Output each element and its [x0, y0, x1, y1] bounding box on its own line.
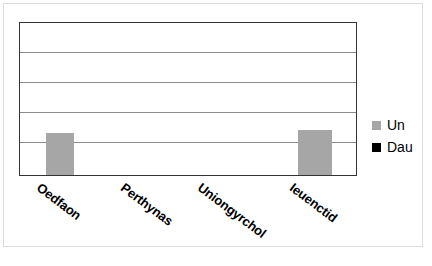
x-axis-labels: Oedfaon Perthynas Uniongyrchol Ieuenctid: [19, 176, 357, 248]
legend-label-dau: Dau: [387, 140, 413, 154]
gridline-2: [20, 82, 356, 83]
gridline-1: [20, 52, 356, 53]
gray-square-icon: [372, 121, 381, 130]
black-square-icon: [372, 143, 381, 152]
plot-area: [19, 22, 357, 176]
bar-oedfaon-un[interactable]: [46, 133, 74, 175]
bar-ieuenctid-un[interactable]: [298, 130, 332, 175]
x-tick-label-perthynas: Perthynas: [118, 180, 176, 229]
legend-item-dau[interactable]: Dau: [372, 136, 428, 158]
legend-label-un: Un: [387, 118, 405, 132]
x-tick-label-oedfaon: Oedfaon: [34, 180, 84, 223]
legend-item-un[interactable]: Un: [372, 114, 428, 136]
chart-figure: Oedfaon Perthynas Uniongyrchol Ieuenctid…: [3, 3, 423, 247]
gridline-3: [20, 112, 356, 113]
x-tick-label-ieuenctid: Ieuenctid: [287, 180, 340, 225]
chart-legend: Un Dau: [372, 114, 428, 158]
x-tick-label-uniongyrchol: Uniongyrchol: [195, 180, 269, 241]
